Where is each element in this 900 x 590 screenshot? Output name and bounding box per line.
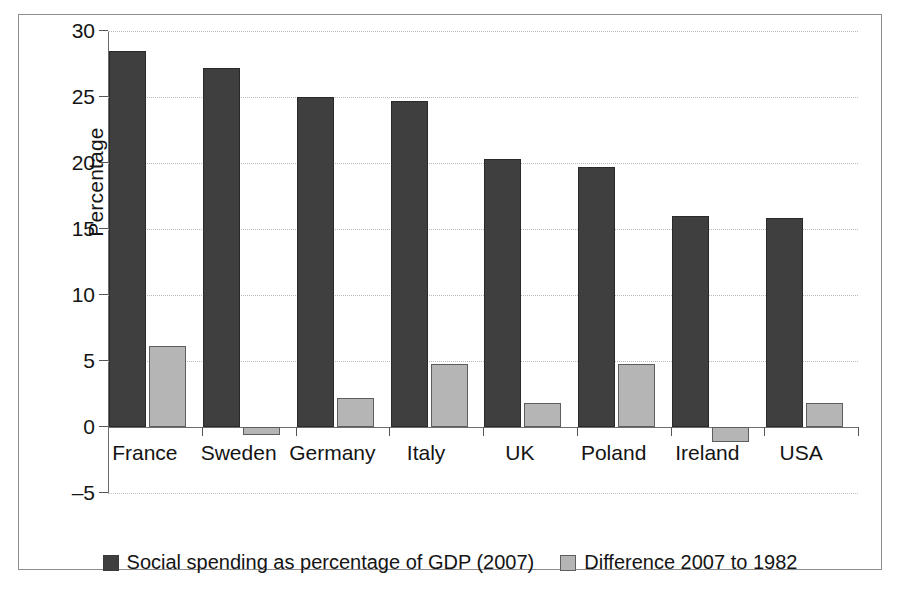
x-tick-mark-5: [671, 427, 672, 436]
y-tick-label-5: 5: [83, 349, 95, 373]
chart-figure: Percentage 302520151050–5 FranceSwedenGe…: [0, 0, 900, 590]
bar-italy-series-1: [391, 101, 428, 427]
bar-ireland-series-2: [712, 427, 749, 442]
y-tick-mark-20: [99, 162, 108, 163]
y-tick-label-30: 30: [72, 19, 95, 43]
bar-group-italy: [389, 31, 483, 493]
chart-legend: Social spending as percentage of GDP (20…: [0, 551, 900, 574]
bar-group-uk: [483, 31, 577, 493]
legend-item-2: Difference 2007 to 1982: [560, 551, 797, 574]
bar-france-series-2: [149, 346, 186, 427]
bar-uk-series-2: [524, 403, 561, 427]
bar-group-usa: [764, 31, 858, 493]
bar-usa-series-2: [806, 403, 843, 427]
x-tick-mark-7: [858, 427, 859, 436]
x-axis-label-italy: Italy: [379, 441, 473, 465]
legend-label-2: Difference 2007 to 1982: [584, 551, 797, 574]
bar-poland-series-1: [578, 167, 615, 427]
gridline--5: [108, 493, 858, 494]
x-axis-label-poland: Poland: [567, 441, 661, 465]
y-tick-mark-10: [99, 294, 108, 295]
light-swatch-icon: [560, 555, 576, 571]
x-axis-label-usa: USA: [754, 441, 848, 465]
y-tick-mark--5: [99, 492, 108, 493]
plot-area: 302520151050–5 FranceSwedenGermanyItalyU…: [108, 31, 858, 493]
y-tick-label--5: –5: [72, 481, 95, 505]
bar-sweden-series-2: [243, 427, 280, 435]
y-tick-label-0: 0: [83, 415, 95, 439]
bar-group-sweden: [202, 31, 296, 493]
y-tick-mark-0: [99, 426, 108, 427]
bar-group-poland: [577, 31, 671, 493]
bar-group-ireland: [671, 31, 765, 493]
x-axis-label-ireland: Ireland: [661, 441, 755, 465]
dark-swatch-icon: [103, 555, 119, 571]
x-tick-mark-2: [389, 427, 390, 436]
bar-group-france: [108, 31, 202, 493]
x-tick-mark-3: [483, 427, 484, 436]
bar-ireland-series-1: [672, 216, 709, 427]
bar-usa-series-1: [766, 218, 803, 427]
y-tick-label-25: 25: [72, 85, 95, 109]
y-tick-label-20: 20: [72, 151, 95, 175]
y-tick-mark-25: [99, 96, 108, 97]
x-tick-mark-6: [764, 427, 765, 436]
y-tick-label-10: 10: [72, 283, 95, 307]
x-axis-label-sweden: Sweden: [192, 441, 286, 465]
legend-label-1: Social spending as percentage of GDP (20…: [127, 551, 535, 574]
x-tick-mark-0: [202, 427, 203, 436]
y-tick-mark-15: [99, 228, 108, 229]
bar-poland-series-2: [618, 364, 655, 427]
legend-item-1: Social spending as percentage of GDP (20…: [103, 551, 535, 574]
bar-series-container: [108, 31, 858, 493]
bar-italy-series-2: [431, 364, 468, 427]
bar-group-germany: [296, 31, 390, 493]
bar-france-series-1: [109, 51, 146, 427]
x-axis-label-uk: UK: [473, 441, 567, 465]
x-axis-label-france: France: [98, 441, 192, 465]
bar-germany-series-2: [337, 398, 374, 427]
y-tick-label-15: 15: [72, 217, 95, 241]
y-tick-mark-5: [99, 360, 108, 361]
x-tick-mark-1: [296, 427, 297, 436]
x-tick-mark-4: [577, 427, 578, 436]
x-axis-label-germany: Germany: [286, 441, 380, 465]
bar-germany-series-1: [297, 97, 334, 427]
bar-uk-series-1: [484, 159, 521, 427]
bar-sweden-series-1: [203, 68, 240, 427]
y-tick-mark-30: [99, 30, 108, 31]
